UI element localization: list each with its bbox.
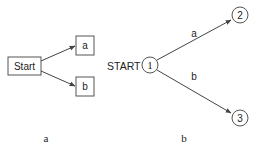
start-box-label: Start [14,61,35,72]
start-label: START [107,60,141,72]
diagram-b: START 1 2 3 a b b [107,7,248,144]
node-1-label: 1 [147,59,153,71]
edge-label-a: a [191,28,197,39]
node-2-label: 2 [237,10,243,21]
node-a-label: a [82,40,88,51]
edge-label-b: b [191,71,197,82]
caption-a: a [44,132,49,144]
diagram-canvas: Start a b a START 1 2 3 a b b [0,0,256,151]
caption-b: b [181,132,187,144]
arrow-start-to-a [41,46,75,61]
arrow-start-to-b [41,71,75,86]
node-3-label: 3 [237,113,243,124]
diagram-a: Start a b a [8,36,94,144]
edge-1-to-2 [157,20,231,60]
node-b-label: b [82,81,88,92]
